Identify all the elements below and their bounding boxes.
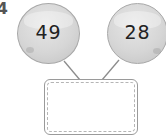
connector-line-right (102, 60, 119, 80)
question-number: 4 (0, 0, 8, 20)
bubble-value-left: 49 (18, 21, 79, 43)
bubble-value-right: 28 (108, 21, 166, 43)
question-number-text: 4 (0, 0, 8, 18)
bubble-shadow-spot (26, 47, 34, 53)
number-bubble-right: 28 (107, 3, 166, 64)
answer-input[interactable] (49, 84, 133, 130)
connector-line-left (64, 61, 80, 80)
answer-box[interactable] (44, 79, 138, 135)
bubble-shadow-spot (153, 48, 161, 54)
number-bubble-left: 49 (17, 3, 80, 64)
